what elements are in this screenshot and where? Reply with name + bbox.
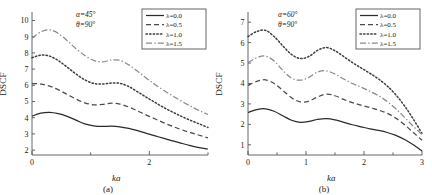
legend: λ=0.0λ=0.5λ=1.0λ=1.5 — [356, 9, 420, 49]
panel-b: 12345670123λ=0.0λ=0.5λ=1.0λ=1.5 DSCF ka … — [216, 0, 432, 195]
panel-a-theta-text: θ=90° — [76, 20, 96, 30]
y-tick-label: 3 — [25, 130, 29, 139]
y-tick-label: 5 — [25, 97, 29, 106]
panel-a-ylabel: DSCF — [0, 72, 8, 95]
x-tick-label: 2 — [362, 158, 366, 167]
panel-a-xlabel: ka — [112, 173, 121, 183]
panel-b-annotation: α=60° θ=90° — [278, 10, 298, 30]
panel-a: 234567891002λ=0.0λ=0.5λ=1.0λ=1.5 DSCF ka… — [0, 0, 216, 195]
panel-a-alpha-text: α=45° — [76, 10, 96, 20]
y-tick-label: 3 — [241, 100, 245, 109]
y-tick-label: 10 — [21, 16, 29, 25]
panel-b-caption: (b) — [216, 184, 432, 194]
y-tick-label: 7 — [25, 65, 29, 74]
y-tick-label: 7 — [241, 18, 245, 27]
panel-b-plot: 12345670123λ=0.0λ=0.5λ=1.0λ=1.5 — [216, 0, 432, 195]
legend-label: λ=0.0 — [166, 12, 183, 20]
legend-label: λ=1.0 — [380, 31, 397, 39]
curve-0.0 — [32, 112, 208, 149]
legend-label: λ=1.0 — [166, 31, 183, 39]
panel-b-xlabel: ka — [327, 173, 336, 183]
panel-b-theta-text: θ=90° — [278, 20, 298, 30]
y-tick-label: 5 — [241, 59, 245, 68]
y-tick-label: 4 — [25, 114, 29, 123]
x-tick-label: 0 — [30, 158, 34, 167]
x-tick-label: 0 — [246, 158, 250, 167]
x-tick-label: 3 — [420, 158, 424, 167]
legend: λ=0.0λ=0.5λ=1.0λ=1.5 — [142, 9, 206, 49]
y-tick-label: 2 — [241, 120, 245, 129]
curve-0.5 — [248, 80, 422, 141]
x-tick-label: 1 — [304, 158, 308, 167]
curve-0.5 — [32, 84, 208, 138]
y-tick-label: 2 — [25, 146, 29, 155]
legend-label: λ=0.5 — [166, 21, 183, 29]
panel-a-annotation: α=45° θ=90° — [76, 10, 96, 30]
y-tick-label: 1 — [241, 141, 245, 150]
panel-a-caption: (a) — [0, 184, 216, 194]
curve-1.0 — [32, 55, 208, 127]
legend-label: λ=1.5 — [166, 40, 183, 48]
curve-0.0 — [248, 109, 422, 151]
legend-label: λ=1.5 — [380, 40, 397, 48]
y-tick-label: 8 — [25, 49, 29, 58]
y-tick-label: 4 — [241, 79, 245, 88]
y-tick-label: 6 — [25, 81, 29, 90]
legend-label: λ=0.5 — [380, 21, 397, 29]
x-tick-label: 2 — [147, 158, 151, 167]
y-tick-label: 9 — [25, 33, 29, 42]
y-tick-label: 6 — [241, 39, 245, 48]
panel-a-plot: 234567891002λ=0.0λ=0.5λ=1.0λ=1.5 — [0, 0, 216, 195]
figure-container: 234567891002λ=0.0λ=0.5λ=1.0λ=1.5 DSCF ka… — [0, 0, 432, 195]
legend-label: λ=0.0 — [380, 12, 397, 20]
panel-b-alpha-text: α=60° — [278, 10, 298, 20]
panel-b-ylabel: DSCF — [214, 72, 224, 95]
